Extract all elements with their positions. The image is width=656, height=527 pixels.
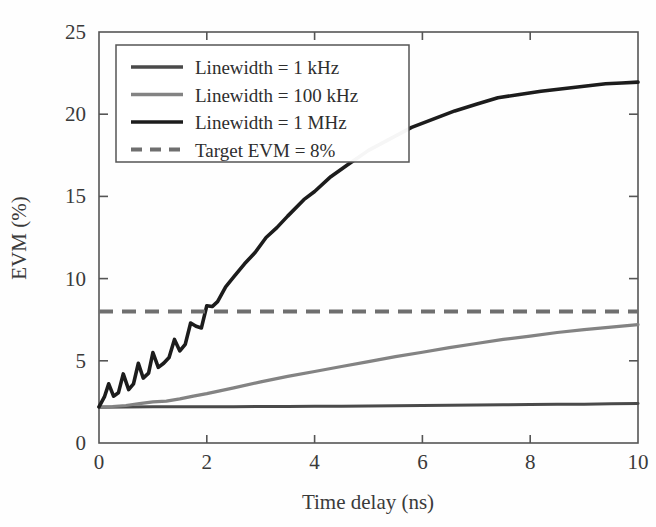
x-tick-label: 4: [309, 450, 320, 474]
evm-vs-time-delay-chart: 0246810 0510152025 Time delay (ns) EVM (…: [0, 0, 656, 527]
x-tick-label: 6: [417, 450, 428, 474]
legend-label: Linewidth = 1 kHz: [195, 57, 339, 78]
x-tick-label: 2: [202, 450, 213, 474]
x-axis-tick-labels: 0246810: [94, 450, 649, 474]
x-tick-label: 8: [525, 450, 536, 474]
series-line: [99, 325, 638, 407]
x-axis-title: Time delay (ns): [302, 490, 434, 514]
y-tick-label: 0: [76, 431, 87, 455]
legend-label: Linewidth = 1 MHz: [195, 112, 347, 133]
x-tick-label: 0: [94, 450, 105, 474]
y-axis-title: EVM (%): [7, 196, 31, 279]
y-tick-label: 25: [65, 20, 86, 44]
y-tick-label: 15: [65, 184, 86, 208]
y-tick-label: 20: [65, 102, 86, 126]
y-tick-label: 10: [65, 267, 86, 291]
y-axis-tick-labels: 0510152025: [65, 20, 86, 455]
legend-label: Linewidth = 100 kHz: [195, 85, 358, 106]
x-tick-label: 10: [628, 450, 649, 474]
legend-label: Target EVM = 8%: [195, 140, 336, 161]
series-line: [99, 404, 638, 408]
chart-legend: Linewidth = 1 kHzLinewidth = 100 kHzLine…: [116, 45, 409, 162]
figure-container: 0246810 0510152025 Time delay (ns) EVM (…: [0, 0, 656, 527]
y-tick-label: 5: [76, 349, 87, 373]
